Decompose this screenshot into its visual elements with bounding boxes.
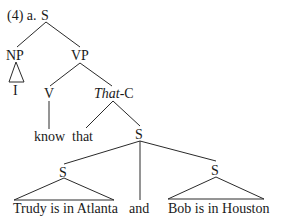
node-np: NP bbox=[6, 49, 24, 63]
node-s-root: S bbox=[41, 9, 49, 23]
node-vp: VP bbox=[71, 49, 89, 63]
tree-branches bbox=[0, 0, 286, 221]
that-c-italic: That bbox=[94, 86, 120, 101]
leaf-and: and bbox=[129, 202, 149, 216]
node-that-c: That-C bbox=[94, 87, 134, 101]
leaf-know: know bbox=[34, 130, 65, 144]
leaf-bob-houston: Bob is in Houston bbox=[168, 202, 270, 216]
node-s-right: S bbox=[211, 164, 219, 178]
leaf-that: that bbox=[72, 130, 93, 144]
node-s-coord: S bbox=[135, 128, 143, 142]
leaf-i: I bbox=[13, 84, 18, 98]
node-v: V bbox=[44, 87, 54, 101]
node-s-left: S bbox=[59, 166, 67, 180]
leaf-trudy-atlanta: Trudy is in Atlanta bbox=[13, 202, 118, 216]
example-label: (4) a. bbox=[7, 9, 37, 23]
that-c-suffix: -C bbox=[120, 86, 134, 101]
